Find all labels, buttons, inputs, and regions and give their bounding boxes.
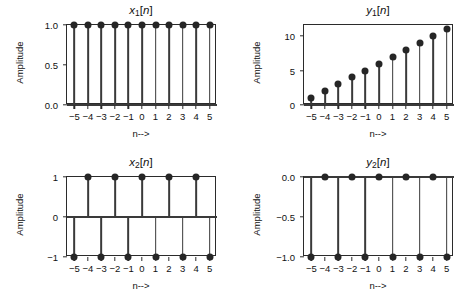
x-tick-label: −1: [360, 263, 371, 274]
x-tick-label: 1: [390, 111, 395, 122]
stem-marker: [403, 46, 410, 53]
x-tick-mark: [87, 105, 88, 109]
y-tick-mark: [300, 176, 304, 177]
x-tick-mark: [311, 105, 312, 109]
x-tick-mark: [168, 105, 169, 109]
y-axis-label-x1: Amplitude: [14, 16, 25, 110]
stem-marker: [193, 22, 200, 29]
x-tick-mark: [365, 257, 366, 261]
stem-marker: [335, 81, 342, 88]
x-tick-mark: [419, 257, 420, 261]
x-axis-label-y1: n-->: [303, 128, 453, 139]
y-tick-mark: [63, 176, 67, 177]
y-tick-mark: [300, 70, 304, 71]
panel-title-y1: y1[n]: [303, 2, 453, 18]
x-tick-label: −5: [306, 263, 317, 274]
x-tick-mark: [114, 257, 115, 261]
y-tick-mark: [300, 35, 304, 36]
x-tick-mark: [128, 257, 129, 261]
x-tick-mark: [419, 105, 420, 109]
plot-axes-x2: −101−5−4−3−2−1012345: [66, 176, 216, 256]
x-tick-mark: [351, 257, 352, 261]
x-tick-label: −5: [306, 111, 317, 122]
y-tick-mark: [63, 216, 67, 217]
x-tick-mark: [182, 257, 183, 261]
plot-panel-x2: x2[n]−101−5−4−3−2−1012345n-->Amplitude: [10, 154, 222, 286]
x-tick-label: 3: [180, 111, 185, 122]
stem-line: [446, 177, 448, 257]
stem-marker: [348, 74, 355, 81]
stem-line: [168, 25, 170, 105]
stem-marker: [193, 174, 200, 181]
stem-line: [311, 177, 313, 257]
x-tick-mark: [141, 105, 142, 109]
x-tick-label: −2: [110, 111, 121, 122]
stem-marker: [308, 95, 315, 102]
y-tick-mark: [63, 256, 67, 257]
x-tick-label: 1: [153, 263, 158, 274]
x-tick-mark: [87, 257, 88, 261]
stem-line: [209, 25, 211, 105]
stem-line: [195, 25, 197, 105]
stem-marker: [430, 174, 437, 181]
panel-title-y2: y2[n]: [303, 154, 453, 170]
stem-marker: [166, 174, 173, 181]
x-tick-label: 3: [180, 263, 185, 274]
stem-marker: [166, 22, 173, 29]
plot-panel-x1: x1[n]0.00.51.0−5−4−3−2−1012345n-->Amplit…: [10, 2, 222, 134]
stem-line: [114, 25, 116, 105]
stem-marker: [179, 22, 186, 29]
x-tick-mark: [338, 105, 339, 109]
stem-line: [128, 217, 130, 257]
stem-line: [446, 29, 448, 105]
x-tick-label: 4: [193, 111, 198, 122]
stem-marker: [125, 22, 132, 29]
x-tick-label: 4: [430, 111, 435, 122]
stem-line: [365, 71, 367, 105]
x-tick-mark: [101, 257, 102, 261]
y-tick-mark: [300, 104, 304, 105]
stem-line: [209, 217, 211, 257]
x-tick-label: 4: [193, 263, 198, 274]
plot-axes-y1: 0510−5−4−3−2−1012345: [303, 24, 453, 104]
x-tick-label: 5: [444, 263, 449, 274]
x-tick-label: −4: [83, 111, 94, 122]
x-tick-label: −5: [69, 263, 80, 274]
stem-marker: [403, 174, 410, 181]
stem-marker: [321, 174, 328, 181]
stem-marker: [376, 60, 383, 67]
stem-line: [351, 77, 353, 105]
x-tick-label: 4: [430, 263, 435, 274]
stem-line: [128, 25, 130, 105]
x-tick-label: 2: [166, 111, 171, 122]
stem-line: [141, 25, 143, 105]
x-tick-mark: [338, 257, 339, 261]
x-axis-label-x1: n-->: [66, 128, 216, 139]
stem-line: [419, 177, 421, 257]
x-tick-mark: [155, 257, 156, 261]
x-tick-mark: [195, 257, 196, 261]
x-tick-label: 0: [376, 111, 381, 122]
stem-line: [87, 25, 89, 105]
x-tick-label: −3: [333, 111, 344, 122]
y-tick-mark: [300, 256, 304, 257]
stem-line: [392, 57, 394, 105]
x-tick-label: −5: [69, 111, 80, 122]
x-tick-label: 2: [403, 111, 408, 122]
x-tick-label: −2: [110, 263, 121, 274]
x-tick-label: −2: [347, 263, 358, 274]
y-tick-mark: [63, 24, 67, 25]
stem-line: [74, 217, 76, 257]
stem-marker: [206, 22, 213, 29]
x-tick-mark: [365, 105, 366, 109]
x-tick-label: −1: [123, 111, 134, 122]
stem-marker: [362, 67, 369, 74]
stem-line: [365, 177, 367, 257]
stem-marker: [443, 26, 450, 33]
x-tick-label: 0: [376, 263, 381, 274]
x-tick-mark: [324, 105, 325, 109]
x-tick-mark: [209, 105, 210, 109]
stem-marker: [111, 22, 118, 29]
plot-panel-y1: y1[n]0510−5−4−3−2−1012345n-->Amplitude: [247, 2, 459, 134]
x-tick-label: −3: [96, 111, 107, 122]
